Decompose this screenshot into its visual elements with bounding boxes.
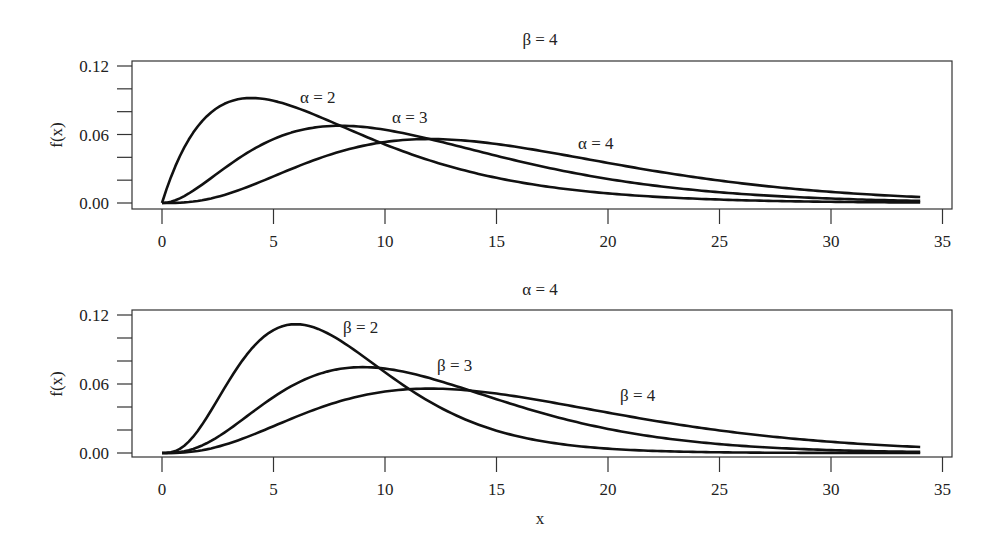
x-tick-label: 5 bbox=[269, 480, 278, 499]
top-panel-title: β = 4 bbox=[522, 30, 558, 49]
x-tick-label: 25 bbox=[711, 232, 728, 251]
x-tick-label: 0 bbox=[158, 480, 167, 499]
x-tick-label: 10 bbox=[377, 232, 394, 251]
x-tick-label: 35 bbox=[934, 232, 951, 251]
bottom-y-axis: 0.000.060.12 bbox=[79, 306, 132, 463]
y-tick-label: 0.06 bbox=[79, 375, 109, 394]
top-y-axis-label: f(x) bbox=[47, 122, 66, 147]
y-tick-label: 0.12 bbox=[79, 57, 109, 76]
density-curve-1 bbox=[162, 324, 920, 453]
x-tick-label: 25 bbox=[711, 480, 728, 499]
y-tick-label: 0.06 bbox=[79, 126, 109, 145]
x-tick-label: 5 bbox=[269, 232, 278, 251]
x-tick-label: 30 bbox=[823, 232, 840, 251]
top-x-axis: 05101520253035 bbox=[158, 209, 951, 251]
bottom-x-axis: 05101520253035 bbox=[158, 457, 951, 499]
bottom-curve-label-beta2: β = 2 bbox=[343, 318, 378, 337]
density-curve-3 bbox=[162, 389, 920, 453]
y-tick-label: 0.00 bbox=[79, 194, 109, 213]
x-tick-label: 0 bbox=[158, 232, 167, 251]
x-tick-label: 20 bbox=[600, 232, 617, 251]
x-tick-label: 20 bbox=[600, 480, 617, 499]
x-tick-label: 15 bbox=[488, 232, 505, 251]
y-tick-label: 0.12 bbox=[79, 306, 109, 325]
density-curve-2 bbox=[162, 126, 920, 203]
x-tick-label: 10 bbox=[377, 480, 394, 499]
x-tick-label: 15 bbox=[488, 480, 505, 499]
bottom-curve-label-beta3: β = 3 bbox=[437, 356, 472, 375]
top-panel: β = 4 0.000.060.12 05101520253035 f(x) α… bbox=[47, 30, 952, 251]
bottom-x-axis-label: x bbox=[536, 509, 545, 528]
top-curve-label-alpha2: α = 2 bbox=[300, 88, 336, 107]
x-tick-label: 35 bbox=[934, 480, 951, 499]
x-tick-label: 30 bbox=[823, 480, 840, 499]
top-y-axis: 0.000.060.12 bbox=[79, 57, 132, 213]
bottom-curve-label-beta4: β = 4 bbox=[620, 386, 656, 405]
gamma-density-figure: β = 4 0.000.060.12 05101520253035 f(x) α… bbox=[0, 0, 993, 552]
y-tick-label: 0.00 bbox=[79, 444, 109, 463]
bottom-panel: α = 4 0.000.060.12 05101520253035 f(x) x… bbox=[47, 280, 952, 528]
top-curves bbox=[162, 98, 920, 203]
top-curve-label-alpha3: α = 3 bbox=[392, 108, 428, 127]
bottom-panel-title: α = 4 bbox=[522, 280, 558, 299]
top-curve-label-alpha4: α = 4 bbox=[578, 134, 614, 153]
bottom-curves bbox=[162, 324, 920, 453]
density-curve-3 bbox=[162, 139, 920, 203]
bottom-y-axis-label: f(x) bbox=[47, 371, 66, 396]
